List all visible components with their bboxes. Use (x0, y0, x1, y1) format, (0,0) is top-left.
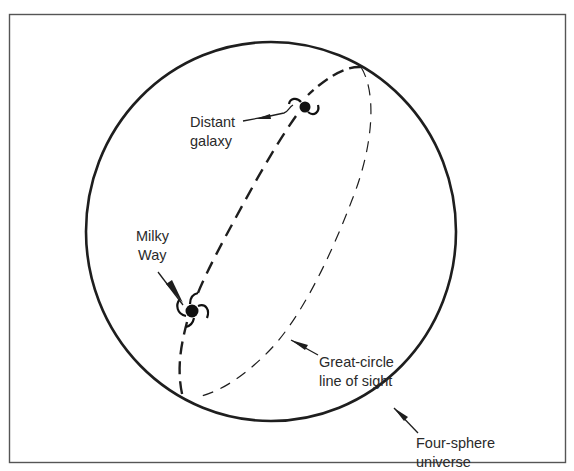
four-sphere-arrowhead (394, 408, 408, 421)
distant-galaxy-icon (289, 99, 318, 114)
distant-galaxy-label: Distant galaxy (190, 113, 235, 151)
figure: Distant galaxy Milky Way Great-circle li… (0, 0, 574, 471)
milky-way-icon (177, 293, 208, 327)
diagram-canvas (0, 0, 574, 471)
great-circle-label: Great-circle line of sight (319, 353, 394, 391)
milky-way-label: Milky Way (136, 227, 169, 265)
distant-galaxy-label-line1: Distant (190, 113, 235, 132)
four-sphere-label-line1: Four-sphere (416, 434, 495, 453)
milky-way-arrowhead (166, 280, 183, 303)
four-sphere-label: Four-sphere universe (416, 439, 495, 471)
four-sphere-label-line2: universe (416, 453, 495, 471)
front-great-circle-path-top (308, 67, 361, 95)
distant-galaxy-arrowhead (256, 114, 271, 119)
great-circle-label-line2: line of sight (319, 372, 394, 391)
milky-way-label-line1: Milky (136, 227, 169, 246)
distant-galaxy-label-line2: galaxy (190, 132, 235, 151)
milky-way-label-line2: Way (136, 246, 169, 265)
great-circle-label-line1: Great-circle (319, 353, 394, 372)
great-circle-arrowhead (291, 340, 308, 350)
figure-frame (10, 15, 566, 463)
front-great-circle-path-bottom (180, 322, 187, 398)
